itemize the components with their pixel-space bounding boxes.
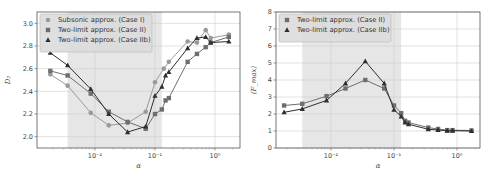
y-axis-label: D₂ — [4, 76, 12, 86]
y-tick-label: 2.2 — [23, 110, 33, 118]
y-tick-label: 4 — [268, 76, 272, 84]
y-axis-label: ⟨F_max⟩ — [250, 65, 258, 94]
y-tick-label: 6 — [268, 42, 272, 50]
legend-entry: Two-limit approx. (Case II) — [296, 16, 386, 24]
y-tick-label: 8 — [268, 8, 272, 16]
legend-entry: Two-limit approx. (Case IIb) — [57, 36, 151, 44]
x-tick-label: 10⁻¹ — [148, 152, 163, 160]
y-tick-label: 3 — [268, 93, 272, 101]
y-tick-label: 2 — [268, 110, 272, 118]
y-tick-label: 3.0 — [23, 20, 33, 28]
y-tick-label: 7 — [268, 25, 272, 33]
figure: 2.02.22.42.62.83.010⁻²10⁻¹10⁰αD₂Subsonic… — [0, 0, 496, 176]
x-tick-label: 10⁰ — [452, 152, 463, 160]
y-tick-label: 1 — [268, 127, 272, 135]
chart-d2-vs-alpha: 2.02.22.42.62.83.010⁻²10⁻¹10⁰αD₂Subsonic… — [0, 0, 248, 176]
x-tick-label: 10⁻¹ — [387, 152, 402, 160]
legend: Subsonic approx. (Case I)Two-limit appro… — [40, 14, 152, 52]
x-tick-label: 10⁻² — [324, 152, 339, 160]
x-axis-label: α — [376, 162, 381, 170]
y-axis: 2.02.22.42.62.83.0 — [23, 20, 37, 141]
y-axis: 012345678 — [268, 8, 276, 152]
y-tick-label: 0 — [268, 144, 272, 152]
x-axis: 10⁻²10⁻¹10⁰ — [53, 148, 233, 160]
legend-entry: Two-limit approx. (Case IIb) — [296, 26, 390, 34]
chart-fmax-vs-alpha: 01234567810⁻²10⁻¹10⁰α⟨F_max⟩Two-limit ap… — [248, 0, 496, 176]
y-tick-label: 2.0 — [23, 133, 33, 141]
legend-entry: Subsonic approx. (Case I) — [58, 16, 145, 24]
x-tick-label: 10⁻² — [88, 152, 103, 160]
x-axis-label: α — [136, 162, 141, 170]
legend-entry: Two-limit approx. (Case II) — [57, 26, 147, 34]
y-tick-label: 2.6 — [23, 65, 33, 73]
x-axis: 10⁻²10⁻¹10⁰ — [287, 148, 476, 160]
x-tick-label: 10⁰ — [210, 152, 221, 160]
y-tick-label: 5 — [268, 59, 272, 67]
y-tick-label: 2.4 — [23, 88, 33, 96]
legend: Two-limit approx. (Case II)Two-limit app… — [279, 14, 391, 42]
y-tick-label: 2.8 — [23, 42, 33, 50]
